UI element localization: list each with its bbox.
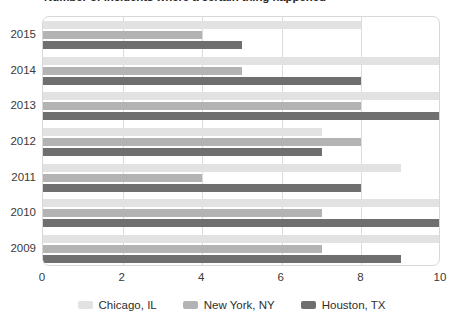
bar <box>43 57 440 65</box>
bar-group <box>43 160 439 196</box>
y-axis-tick-label: 2014 <box>0 64 36 76</box>
bar <box>43 184 361 192</box>
bar <box>43 209 322 217</box>
legend-swatch-icon <box>78 301 93 309</box>
bar <box>43 41 242 49</box>
legend-swatch-icon <box>301 301 316 309</box>
legend-item[interactable]: Chicago, IL <box>78 299 157 311</box>
y-axis-tick-label: 2010 <box>0 206 36 218</box>
x-axis-tick-label: 6 <box>278 271 284 283</box>
bar <box>43 255 401 263</box>
x-axis-tick-label: 4 <box>198 271 204 283</box>
bar <box>43 174 202 182</box>
bar <box>43 128 322 136</box>
legend-item[interactable]: Houston, TX <box>301 299 386 311</box>
legend-item[interactable]: New York, NY <box>183 299 275 311</box>
bar <box>43 92 440 100</box>
y-axis-tick-label: 2015 <box>0 28 36 40</box>
bar <box>43 164 401 172</box>
legend-label: New York, NY <box>204 299 275 311</box>
bar <box>43 67 242 75</box>
plot-area <box>42 16 440 266</box>
x-axis-tick-label: 8 <box>357 271 363 283</box>
bar <box>43 199 440 207</box>
x-axis-tick-label: 0 <box>39 271 45 283</box>
bar-group <box>43 17 439 53</box>
bar <box>43 138 361 146</box>
bar <box>43 235 440 243</box>
bar <box>43 219 440 227</box>
bar <box>43 148 322 156</box>
x-axis-tick-label: 2 <box>118 271 124 283</box>
y-axis-tick-label: 2011 <box>0 171 36 183</box>
legend-label: Chicago, IL <box>99 299 157 311</box>
y-axis-tick-label: 2013 <box>0 99 36 111</box>
chart-title: Number of incidents where a certain thin… <box>44 0 444 3</box>
bar-group <box>43 231 439 266</box>
bar-group <box>43 53 439 89</box>
bar <box>43 102 361 110</box>
bar-chart: Number of incidents where a certain thin… <box>0 0 463 330</box>
bar-group <box>43 88 439 124</box>
legend-swatch-icon <box>183 301 198 309</box>
bar <box>43 77 361 85</box>
bar-group <box>43 196 439 232</box>
y-axis-tick-label: 2012 <box>0 135 36 147</box>
legend-label: Houston, TX <box>322 299 386 311</box>
bar-group <box>43 124 439 160</box>
bar <box>43 21 361 29</box>
chart-legend: Chicago, ILNew York, NYHouston, TX <box>0 299 463 311</box>
bar <box>43 245 322 253</box>
y-axis-tick-label: 2009 <box>0 242 36 254</box>
x-axis-tick-label: 10 <box>434 271 447 283</box>
bar <box>43 112 440 120</box>
bar <box>43 31 202 39</box>
